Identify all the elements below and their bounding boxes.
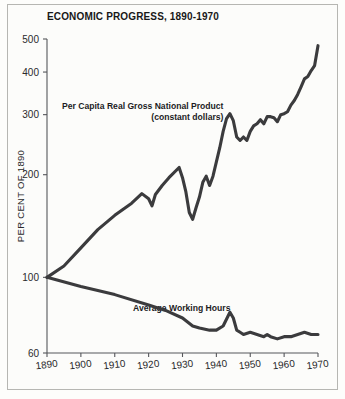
- series-line-working-hours: [47, 277, 318, 339]
- y-tick-label-400: 400: [22, 67, 39, 78]
- x-tick-label-1900: 1900: [69, 358, 93, 372]
- x-tick-group: 189019001910192019301940195019601970: [35, 353, 330, 371]
- x-tick-label-1920: 1920: [136, 358, 160, 372]
- y-tick-label-60: 60: [28, 348, 40, 359]
- x-tick-label-1940: 1940: [204, 358, 228, 372]
- chart-plot-area: 60100200300400500 1890190019101920193019…: [0, 0, 345, 399]
- y-tick-label-100: 100: [22, 272, 39, 283]
- x-tick-label-1930: 1930: [170, 358, 194, 372]
- x-tick-label-1950: 1950: [238, 358, 262, 372]
- series-group: [47, 46, 318, 339]
- x-tick-label-1970: 1970: [306, 358, 330, 372]
- y-tick-group: 60100200300400500: [22, 34, 47, 359]
- x-tick-label-1890: 1890: [35, 358, 59, 372]
- x-tick-label-1910: 1910: [103, 358, 127, 372]
- chart-figure: ECONOMIC PROGRESS, 1890-1970 Per Capita …: [0, 0, 345, 399]
- series-line-gnp: [47, 46, 318, 278]
- x-tick-label-1960: 1960: [272, 358, 296, 372]
- x-axis: 189019001910192019301940195019601970: [35, 353, 330, 371]
- y-tick-label-500: 500: [22, 34, 39, 45]
- y-tick-label-300: 300: [22, 109, 39, 120]
- y-axis-title: PER CENT OF 1890: [15, 150, 26, 242]
- y-axis: 60100200300400500: [22, 34, 47, 359]
